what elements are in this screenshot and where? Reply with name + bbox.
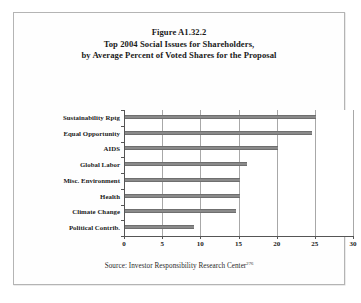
gridline-20 <box>277 110 278 236</box>
y-tick-4 <box>121 173 124 174</box>
y-axis-label-0: Sustainability Rptg <box>15 114 120 121</box>
x-tick-20 <box>277 236 278 239</box>
x-axis-label-10: 10 <box>190 240 210 248</box>
x-tick-5 <box>162 236 163 239</box>
x-tick-15 <box>239 236 240 239</box>
title-line-2: Top 2004 Social Issues for Shareholders, <box>14 39 344 51</box>
bar-1 <box>125 131 312 135</box>
bar-2 <box>125 146 278 150</box>
y-axis-label-4: Misc. Environment <box>15 177 120 184</box>
y-tick-7 <box>121 220 124 221</box>
y-axis-label-5: Health <box>15 193 120 200</box>
bar-7 <box>125 225 194 229</box>
bar-6 <box>125 209 236 213</box>
gridline-30 <box>353 110 354 236</box>
source-text: Source: Investor Responsibility Research… <box>105 262 247 270</box>
x-tick-25 <box>315 236 316 239</box>
title-line-1: Figure A1.32.2 <box>14 27 344 39</box>
x-axis-label-15: 15 <box>229 240 249 248</box>
x-tick-30 <box>353 236 354 239</box>
gridline-10 <box>200 110 201 236</box>
source-footnote-marker: 276 <box>246 261 253 266</box>
x-axis-label-30: 30 <box>343 240 361 248</box>
y-axis-label-6: Climate Change <box>15 208 120 215</box>
figure-frame: Figure A1.32.2 Top 2004 Social Issues fo… <box>13 12 345 285</box>
y-axis-label-3: Global Labor <box>15 161 120 168</box>
bar-5 <box>125 194 240 198</box>
y-axis-label-1: Equal Opportunity <box>15 130 120 137</box>
y-tick-1 <box>121 126 124 127</box>
gridline-25 <box>315 110 316 236</box>
gridline-5 <box>162 110 163 236</box>
y-tick-6 <box>121 205 124 206</box>
x-tick-10 <box>200 236 201 239</box>
y-tick-0 <box>121 110 124 111</box>
y-axis-labels: Sustainability RptgEqual OpportunityAIDS… <box>14 110 120 236</box>
figure-title: Figure A1.32.2 Top 2004 Social Issues fo… <box>14 27 344 62</box>
source-note: Source: Investor Responsibility Research… <box>14 261 344 270</box>
y-tick-5 <box>121 189 124 190</box>
x-axis-label-25: 25 <box>305 240 325 248</box>
y-tick-3 <box>121 157 124 158</box>
bar-0 <box>125 115 316 119</box>
y-axis-line <box>124 110 125 236</box>
y-axis-label-2: AIDS <box>15 145 120 152</box>
y-axis-label-7: Political Contrib. <box>15 224 120 231</box>
x-axis-label-5: 5 <box>152 240 172 248</box>
y-tick-2 <box>121 142 124 143</box>
x-axis-label-20: 20 <box>267 240 287 248</box>
title-line-3: by Average Percent of Voted Shares for t… <box>14 50 344 62</box>
plot-area <box>124 110 353 236</box>
bar-4 <box>125 178 240 182</box>
x-tick-0 <box>124 236 125 239</box>
x-axis-label-0: 0 <box>114 240 134 248</box>
gridline-15 <box>239 110 240 236</box>
bar-3 <box>125 162 247 166</box>
